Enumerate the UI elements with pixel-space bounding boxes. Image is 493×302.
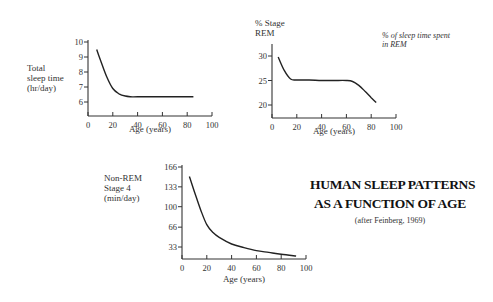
y-tick-label: 8	[79, 67, 83, 77]
chart-3: 3366100133166020406080100Age (years)	[164, 162, 312, 284]
data-line	[189, 177, 296, 256]
y-tick-label: 33	[169, 242, 178, 252]
y-tick-label: 166	[164, 162, 177, 172]
x-tick-label: 60	[252, 263, 261, 273]
x-tick-label: 0	[180, 263, 184, 273]
figure-citation: (after Feinberg, 1969)	[310, 216, 470, 225]
x-tick-label: 80	[183, 120, 192, 130]
x-tick-label: 80	[367, 122, 376, 132]
chart2-annotation: % of sleep time spent in REM	[382, 31, 450, 49]
chart2-ylabel-line1: % Stage	[255, 18, 285, 28]
chart3-ylabel-line1: Non-REM	[104, 173, 142, 183]
x-tick-label: 20	[203, 263, 212, 273]
y-tick-label: 25	[259, 76, 268, 86]
chart1-ylabel-line3: (hr/day)	[27, 83, 64, 93]
x-tick-label: 100	[300, 263, 313, 273]
chart2-ylabel: % Stage REM	[255, 18, 285, 38]
chart3-ylabel: Non-REM Stage 4 (min/day)	[104, 173, 142, 203]
x-tick-label: 0	[86, 120, 90, 130]
chart-1: 678910020406080100Age (years)	[75, 37, 219, 134]
chart2-annotation-line1: % of sleep time spent	[382, 31, 450, 40]
y-tick-label: 6	[79, 97, 83, 107]
y-tick-label: 66	[169, 222, 178, 232]
chart1-ylabel-line1: Total	[27, 63, 64, 73]
x-axis-label: Age (years)	[313, 126, 355, 136]
y-tick-label: 7	[79, 82, 83, 92]
y-tick-label: 133	[164, 182, 177, 192]
y-tick-label: 100	[164, 202, 177, 212]
x-axis-label: Age (years)	[223, 274, 265, 284]
x-tick-label: 100	[206, 120, 219, 130]
y-tick-label: 10	[75, 37, 84, 47]
x-axis-label: Age (years)	[129, 124, 171, 134]
chart3-ylabel-line2: Stage 4	[104, 183, 142, 193]
chart3-ylabel-line3: (min/day)	[104, 193, 142, 203]
x-tick-label: 40	[227, 263, 236, 273]
chart2-annotation-line2: in REM	[382, 40, 450, 49]
x-tick-label: 20	[109, 120, 118, 130]
x-tick-label: 80	[277, 263, 286, 273]
figure-title-line1: HUMAN SLEEP PATTERNS	[310, 177, 470, 193]
chart1-ylabel: Total sleep time (hr/day)	[27, 63, 64, 93]
y-tick-label: 20	[259, 100, 268, 110]
chart1-ylabel-line2: sleep time	[27, 73, 64, 83]
chart2-ylabel-line2: REM	[255, 28, 285, 38]
data-line	[278, 57, 376, 103]
chart-2: 202530020406080100Age (years)	[259, 44, 403, 136]
data-line	[97, 50, 194, 97]
y-tick-label: 9	[79, 52, 83, 62]
y-tick-label: 30	[259, 51, 268, 61]
figure-title-line2: AS A FUNCTION OF AGE	[310, 196, 470, 212]
x-tick-label: 100	[390, 122, 403, 132]
x-tick-label: 20	[293, 122, 302, 132]
x-tick-label: 0	[270, 122, 274, 132]
